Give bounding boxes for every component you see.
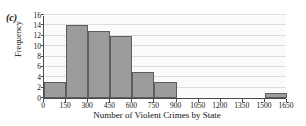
y-tick-label: 16: [25, 12, 41, 20]
histogram-figure: (c) Frequency 0246810121416 015030045060…: [0, 0, 306, 126]
x-tick-mark: [176, 99, 177, 102]
x-tick-mark: [109, 99, 110, 102]
gridline: [44, 14, 286, 15]
x-tick-label: 1500: [256, 102, 271, 110]
x-tick-label: 150: [59, 102, 70, 110]
y-tick-label: 0: [25, 95, 41, 103]
y-tick-label: 8: [25, 53, 41, 61]
x-tick-label: 750: [148, 102, 159, 110]
x-axis-title: Number of Violent Crimes by State: [42, 110, 272, 120]
y-tick-label: 10: [25, 43, 41, 51]
x-tick-mark: [65, 99, 66, 102]
x-tick-label: 300: [82, 102, 93, 110]
x-tick-mark: [264, 99, 265, 102]
x-tick-mark: [286, 99, 287, 102]
histogram-bar: [66, 25, 88, 98]
x-tick-mark: [242, 99, 243, 102]
x-tick-mark: [43, 99, 44, 102]
y-tick-label: 14: [25, 22, 41, 30]
x-tick-label: 1650: [279, 102, 294, 110]
x-tick-label: 600: [126, 102, 137, 110]
x-tick-label: 1350: [234, 102, 249, 110]
x-tick-label: 1050: [190, 102, 205, 110]
y-tick-label: 6: [25, 63, 41, 71]
x-tick-label: 900: [170, 102, 181, 110]
y-tick-label: 2: [25, 84, 41, 92]
x-tick-label: 450: [104, 102, 115, 110]
histogram-bar: [110, 36, 132, 98]
histogram-bar: [88, 31, 110, 98]
y-tick-label: 12: [25, 32, 41, 40]
x-tick-label: 0: [41, 102, 45, 110]
x-tick-mark: [153, 99, 154, 102]
y-axis-title: Frequency: [13, 9, 23, 69]
x-tick-mark: [198, 99, 199, 102]
y-axis-tick-labels: 0246810121416: [24, 16, 41, 98]
histogram-bar: [132, 72, 154, 98]
x-tick-mark: [220, 99, 221, 102]
histogram-bar: [44, 82, 66, 98]
histogram-bar: [154, 82, 176, 98]
plot-area: [43, 16, 286, 99]
x-tick-mark: [87, 99, 88, 102]
x-tick-label: 1200: [212, 102, 227, 110]
histogram-bar: [265, 93, 287, 98]
y-tick-label: 4: [25, 74, 41, 82]
x-tick-mark: [131, 99, 132, 102]
